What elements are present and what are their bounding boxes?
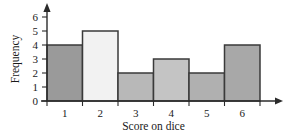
- x-tick-label: 4: [169, 107, 175, 119]
- bar-4: [154, 59, 190, 101]
- y-tick-label: 0: [33, 95, 39, 107]
- y-tick-label: 1: [33, 81, 39, 93]
- x-tick-label: 2: [98, 107, 104, 119]
- x-axis-title: Score on dice: [122, 120, 185, 132]
- y-tick-label: 4: [33, 39, 39, 51]
- y-axis-title: Frequency: [9, 34, 22, 83]
- bar-6: [225, 45, 261, 101]
- x-axis-ticks: 123456: [47, 101, 260, 119]
- y-axis-arrow-icon: [43, 3, 50, 12]
- x-tick-label: 1: [62, 107, 68, 119]
- x-tick-label: 3: [133, 107, 139, 119]
- bar-3: [118, 73, 154, 101]
- bar-chart: 0123456 123456 Frequency Score on dice: [0, 0, 297, 132]
- y-tick-label: 3: [33, 53, 39, 65]
- x-tick-label: 6: [240, 107, 246, 119]
- bars-group: [47, 31, 260, 101]
- y-tick-label: 5: [33, 25, 39, 37]
- x-axis-arrow-icon: [275, 97, 283, 104]
- bar-1: [47, 45, 83, 101]
- bar-5: [189, 73, 225, 101]
- y-tick-label: 2: [33, 67, 39, 79]
- chart-canvas: 0123456 123456 Frequency Score on dice: [0, 0, 297, 132]
- y-tick-label: 6: [33, 11, 39, 23]
- y-axis-ticks: 0123456: [33, 11, 48, 107]
- bar-2: [83, 31, 119, 101]
- x-tick-label: 5: [204, 107, 210, 119]
